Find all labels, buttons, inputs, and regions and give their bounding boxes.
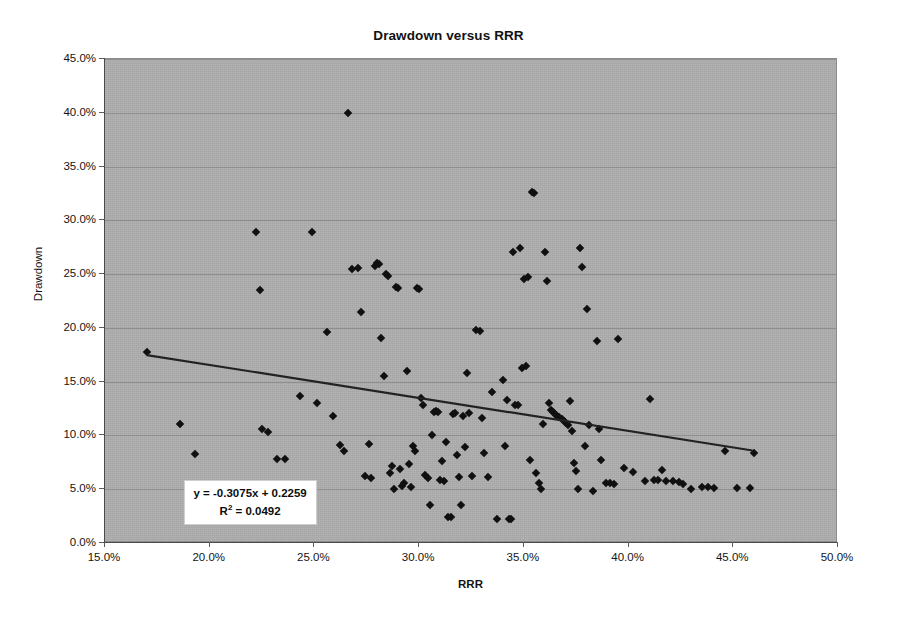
x-tick-label: 20.0% [174,551,244,563]
y-tick-label: 35.0% [34,160,96,172]
trendline [105,59,836,541]
data-point [143,347,151,355]
data-point [541,247,549,255]
gridline [105,274,836,275]
data-point [377,333,385,341]
x-axis-title: RRR [104,578,837,590]
data-point [501,442,509,450]
data-point [256,286,264,294]
data-point [461,443,469,451]
data-point [480,448,488,456]
data-point [423,474,431,482]
data-point [484,473,492,481]
data-point [532,469,540,477]
y-tick-label: 45.0% [34,52,96,64]
data-point [570,459,578,467]
data-point [578,262,586,270]
x-tick-mark [209,542,210,547]
r-symbol: R [220,505,228,517]
x-tick-mark [104,542,105,547]
x-axis-line [104,542,838,543]
data-point [329,412,337,420]
data-point [390,485,398,493]
data-point [442,438,450,446]
data-point [440,476,448,484]
data-point [176,419,184,427]
data-point [427,431,435,439]
data-point [750,448,758,456]
x-tick-label: 50.0% [802,551,872,563]
gridline [105,382,836,383]
data-point [367,474,375,482]
data-point [425,501,433,509]
data-point [323,328,331,336]
y-tick-label: 15.0% [34,375,96,387]
data-point [344,109,352,117]
data-point [679,480,687,488]
y-tick-mark [99,273,104,274]
data-point [503,396,511,404]
data-point [308,228,316,236]
data-point [365,440,373,448]
data-point [492,515,500,523]
data-point [733,484,741,492]
data-point [457,501,465,509]
data-point [379,372,387,380]
x-tick-mark [732,542,733,547]
x-tick-mark [628,542,629,547]
r-squared-value: = 0.0492 [236,505,281,517]
gridline [105,167,836,168]
data-point [687,485,695,493]
chart-title: Drawdown versus RRR [0,28,897,43]
data-point [576,244,584,252]
data-point [354,263,362,271]
x-tick-mark [837,542,838,547]
data-point [419,401,427,409]
y-tick-mark [99,488,104,489]
trendline-equation-text: y = -0.3075x + 0.2259 [194,485,307,502]
gridline [105,220,836,221]
y-tick-mark [99,327,104,328]
y-tick-label: 0.0% [34,536,96,548]
data-point [453,451,461,459]
data-point [252,228,260,236]
plot-background-texture [105,59,836,541]
data-point [526,456,534,464]
data-point [386,469,394,477]
x-tick-label: 45.0% [697,551,767,563]
data-point [710,484,718,492]
data-point [438,457,446,465]
data-point [610,480,618,488]
data-point [629,468,637,476]
y-tick-mark [99,381,104,382]
plot-area: y = -0.3075x + 0.2259 R2 = 0.0492 [104,58,837,542]
data-point [614,334,622,342]
data-point [746,484,754,492]
y-tick-label: 20.0% [34,321,96,333]
y-tick-label: 25.0% [34,267,96,279]
data-point [402,367,410,375]
x-tick-label: 35.0% [488,551,558,563]
data-point [538,419,546,427]
data-point [620,463,628,471]
y-tick-mark [99,434,104,435]
data-point [191,449,199,457]
data-point [543,276,551,284]
data-point [580,442,588,450]
data-point [396,465,404,473]
data-point [645,395,653,403]
gridline [105,59,836,60]
data-point [272,455,280,463]
y-tick-label: 30.0% [34,213,96,225]
data-point [281,455,289,463]
y-tick-mark [99,166,104,167]
x-tick-label: 25.0% [278,551,348,563]
data-point [641,476,649,484]
data-point [566,397,574,405]
y-tick-label: 10.0% [34,428,96,440]
y-tick-label: 5.0% [34,482,96,494]
data-point [572,467,580,475]
data-point [478,414,486,422]
data-point [404,460,412,468]
x-tick-label: 40.0% [593,551,663,563]
